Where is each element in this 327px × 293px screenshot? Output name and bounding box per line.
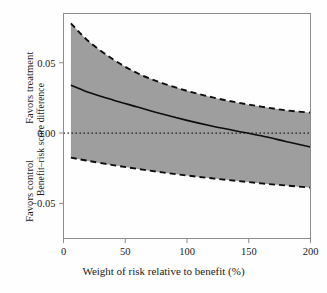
y-axis-ticks <box>59 63 64 204</box>
chart-figure: Favors treatment Favors control Benefit–… <box>0 0 327 293</box>
plot-area <box>0 0 327 293</box>
confidence-band-group <box>71 23 311 187</box>
confidence-band <box>71 23 311 187</box>
x-axis-ticks <box>64 239 311 244</box>
